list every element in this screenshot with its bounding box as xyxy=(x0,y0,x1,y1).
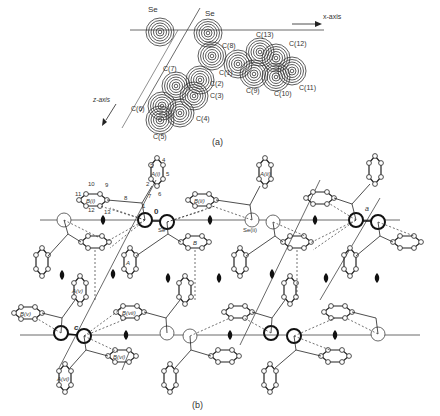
ring-label-b-vi: B(vi) xyxy=(113,354,125,360)
crystal-structure-figure: x-axis z-axis Se Se C(8) C(13) C(12) C(1… xyxy=(0,0,440,416)
panel-a-contour-map: x-axis z-axis Se Se C(8) C(13) C(12) C(1… xyxy=(92,5,342,147)
ring-label-a-v: A(v) xyxy=(71,288,83,294)
atom-number: 9 xyxy=(105,182,109,188)
atom-number: 13 xyxy=(104,209,111,215)
atom-label: Se xyxy=(205,9,215,18)
se-ii-atom-label: Se(ii) xyxy=(243,227,257,233)
se-atom-label: Se xyxy=(158,227,166,233)
atom-label: C(4) xyxy=(196,115,210,123)
atom-label: C(2) xyxy=(210,80,224,88)
atom-label: C(6) xyxy=(131,105,145,113)
atom-number: 11 xyxy=(75,191,82,197)
atom-number: 7 xyxy=(148,193,152,199)
atom-label: Se xyxy=(148,5,158,14)
atom-number: 6 xyxy=(158,191,162,197)
atom-label: C(12) xyxy=(289,40,307,48)
ring-label-b-vii: B(vii) xyxy=(122,310,136,316)
atom-number: 2 xyxy=(146,181,150,187)
z-axis-arrow-icon xyxy=(102,104,116,126)
z-axis-label: z-axis xyxy=(92,96,111,103)
atom-number: 10 xyxy=(88,181,95,187)
origin-label: 0 xyxy=(154,207,159,216)
atom-number: 5 xyxy=(166,171,170,177)
atom-label: C(9) xyxy=(246,87,260,95)
atom-label: C(8) xyxy=(222,42,236,50)
ring-label-a-vi: A(vi) xyxy=(56,376,69,382)
atom-number: 12 xyxy=(88,207,95,213)
panel-b-caption: (b) xyxy=(192,400,203,410)
ring-label-b-ii: B(ii) xyxy=(194,198,205,204)
ring-label-b: B xyxy=(193,240,197,246)
atom-label: C(1) xyxy=(219,69,233,77)
atom-label: C(13) xyxy=(256,31,274,39)
x-axis-arrow-icon xyxy=(292,21,322,27)
atom-number: 1 xyxy=(142,203,146,209)
atom-label: C(5) xyxy=(153,133,167,141)
ring-label-b-v: B(v) xyxy=(20,311,31,317)
x-axis-label: x-axis xyxy=(323,13,342,20)
ring-label-b-i: B(i) xyxy=(86,198,95,204)
a-axis-label: a xyxy=(365,205,369,212)
c-axis-label: c xyxy=(74,323,79,332)
atom-number: 4 xyxy=(162,157,166,163)
atom-label: C(3) xyxy=(210,92,224,100)
atom-label: C(7) xyxy=(163,65,177,73)
atom-label: C(11) xyxy=(299,84,316,92)
panel-b-packing-diagram: 0 a c Se Se(ii) A(i) B(i) A(ii) B(ii) A … xyxy=(12,154,424,410)
atom-number: 8 xyxy=(124,195,128,201)
ring-label-a-i: A(i) xyxy=(150,171,160,177)
atom-label: C(10) xyxy=(274,90,292,98)
ring-label-a: A xyxy=(125,260,130,266)
panel-a-caption: (a) xyxy=(212,137,223,147)
ring-label-a-ii: A(ii) xyxy=(259,171,271,177)
